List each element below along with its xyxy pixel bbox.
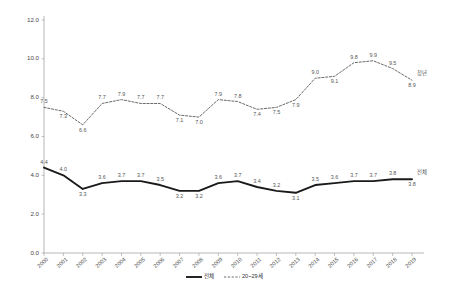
y-tick-label: 2.0 (30, 210, 39, 217)
y-tick-label: 6.0 (30, 132, 39, 139)
data-point-label: 7.1 (176, 117, 184, 123)
data-point-label: 3.8 (408, 181, 416, 187)
data-point-label: 3.7 (234, 172, 242, 178)
data-point-label: 3.7 (118, 172, 126, 178)
data-point-label: 3.6 (331, 174, 339, 180)
chart-legend[interactable]: 전체20~29세 (186, 272, 263, 280)
y-tick-label: 8.0 (30, 93, 39, 100)
data-point-label: 7.9 (118, 91, 126, 97)
y-axis: 0.02.04.06.08.010.012.0 (27, 16, 44, 256)
data-point-label: 9.9 (370, 52, 378, 58)
data-point-label: 7.9 (215, 91, 223, 97)
data-point-label: 3.4 (253, 178, 261, 184)
x-tick-label: 2018 (385, 256, 398, 269)
data-point-label: 7.7 (98, 94, 106, 100)
data-point-label: 9.1 (331, 78, 339, 84)
data-point-label: 3.6 (98, 174, 106, 180)
x-tick-label: 2013 (288, 256, 301, 269)
legend-label[interactable]: 전체 (204, 272, 214, 280)
data-point-label: 7.7 (156, 94, 164, 100)
data-point-label: 3.7 (137, 172, 145, 178)
data-point-label: 7.0 (195, 119, 203, 125)
x-tick-label: 2001 (55, 256, 68, 269)
data-point-label: 7.5 (40, 98, 48, 104)
x-tick-label: 2019 (404, 256, 417, 269)
data-point-label: 6.6 (79, 127, 87, 133)
x-tick-label: 2011 (249, 256, 262, 269)
data-point-label: 9.5 (389, 60, 397, 66)
data-point-label: 9.0 (311, 69, 319, 75)
data-point-label: 7.5 (273, 109, 281, 115)
series-end-label: 전체 (417, 168, 427, 176)
x-tick-label: 2010 (230, 256, 243, 269)
x-tick-label: 2014 (307, 256, 320, 269)
x-tick-label: 2007 (172, 256, 185, 269)
x-tick-label: 2003 (94, 256, 107, 269)
data-point-label: 3.5 (311, 176, 319, 182)
data-point-label: 3.3 (79, 191, 87, 197)
legend-label[interactable]: 20~29세 (242, 272, 263, 280)
data-point-label: 7.7 (137, 94, 145, 100)
y-tick-label: 0.0 (30, 249, 39, 256)
data-point-label: 9.8 (350, 54, 358, 60)
chart-canvas: 0.02.04.06.08.010.012.0 2000200120022003… (0, 0, 449, 299)
x-axis: 2000200120022003200420052006200720082009… (36, 253, 424, 269)
x-tick-label: 2009 (210, 256, 223, 269)
data-labels: 4.44.03.33.63.73.73.53.23.23.63.73.43.23… (40, 52, 416, 201)
x-tick-label: 2016 (346, 256, 359, 269)
x-tick-label: 2012 (268, 256, 281, 269)
data-point-label: 3.2 (195, 193, 203, 199)
data-point-label: 8.9 (408, 82, 416, 88)
data-point-label: 4.0 (60, 166, 68, 172)
x-tick-label: 2005 (133, 256, 146, 269)
data-point-label: 3.7 (370, 172, 378, 178)
x-tick-label: 2017 (365, 256, 378, 269)
x-tick-label: 2004 (114, 256, 127, 269)
data-point-label: 4.4 (40, 159, 48, 165)
x-tick-label: 2002 (75, 256, 88, 269)
series-line-2 (44, 61, 412, 125)
data-point-label: 3.8 (389, 170, 397, 176)
data-point-label: 3.2 (273, 182, 281, 188)
x-tick-label: 2015 (327, 256, 340, 269)
data-point-label: 3.7 (350, 172, 358, 178)
data-point-label: 7.4 (253, 111, 261, 117)
line-chart: 0.02.04.06.08.010.012.0 2000200120022003… (0, 0, 449, 299)
data-point-label: 3.5 (156, 176, 164, 182)
x-tick-label: 2000 (36, 256, 49, 269)
y-tick-label: 12.0 (27, 16, 40, 23)
series-end-labels: 전체청년 (417, 69, 427, 176)
x-tick-label: 2006 (152, 256, 165, 269)
data-point-label: 7.8 (234, 93, 242, 99)
data-point-label: 7.9 (292, 102, 300, 108)
y-tick-label: 4.0 (30, 171, 39, 178)
data-point-label: 7.3 (60, 113, 68, 119)
y-tick-label: 10.0 (27, 54, 40, 61)
series-end-label: 청년 (417, 69, 427, 76)
data-point-label: 3.6 (215, 174, 223, 180)
data-point-label: 3.2 (176, 193, 184, 199)
x-tick-label: 2008 (191, 256, 204, 269)
data-point-label: 3.1 (292, 195, 300, 201)
